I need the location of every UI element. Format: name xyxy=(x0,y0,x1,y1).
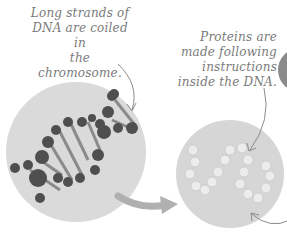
diagram-canvas xyxy=(0,0,287,239)
arrow-head-icon xyxy=(160,196,178,214)
partial-circle xyxy=(278,48,287,92)
arrow-shaft xyxy=(118,196,165,206)
